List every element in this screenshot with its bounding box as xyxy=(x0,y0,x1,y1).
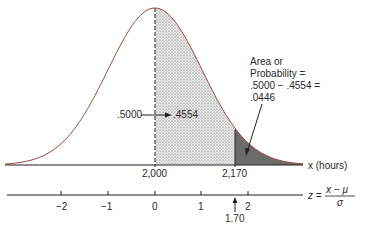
z-tick-label: −2 xyxy=(56,201,68,212)
shaded-area-tail xyxy=(235,128,303,165)
z-tick-label: −1 xyxy=(101,201,113,212)
shaded-area-middle xyxy=(155,8,235,165)
z-tick-label: 1 xyxy=(198,201,204,212)
half-area-label: .5000 xyxy=(117,109,142,120)
tail-annotation-line-3: .5000 − .4554 = xyxy=(250,80,320,91)
z-tick-label: 2 xyxy=(245,201,251,212)
x-tick-2000: 2,000 xyxy=(142,168,167,179)
middle-area-label: .4554 xyxy=(173,109,198,120)
tail-annotation-line-2: Probability = xyxy=(250,68,305,79)
x-axis-label: x (hours) xyxy=(308,160,347,171)
normal-curve-diagram: 2,000 2,170 x (hours) .5000 .4554 Area o… xyxy=(0,0,365,235)
tail-annotation-line-4: .0446 xyxy=(250,92,275,103)
z-marker-label: 1.70 xyxy=(225,213,245,224)
z-formula-numerator: x − μ xyxy=(325,184,348,195)
z-marker-arrowhead xyxy=(233,197,238,203)
z-tick-label: 0 xyxy=(152,201,158,212)
x-tick-2170: 2,170 xyxy=(222,168,247,179)
tail-annotation-line-1: Area or xyxy=(250,56,283,67)
z-formula-z: z = xyxy=(307,190,322,201)
tail-pointer-line xyxy=(247,104,262,152)
z-formula-denominator: σ xyxy=(337,197,344,208)
